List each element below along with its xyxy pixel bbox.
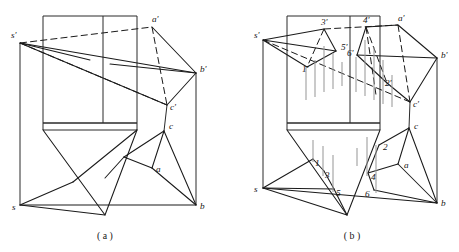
- figure-b-label-5: 5: [336, 188, 341, 198]
- figure-a-label-c: c: [169, 121, 173, 131]
- figure-b-caption: ( b ): [344, 230, 360, 242]
- figure-b-label-b-prime: b': [441, 50, 449, 60]
- figure-a-label-s-prime: s': [11, 30, 18, 40]
- figure-a-label-b: b: [200, 201, 205, 211]
- figure-b-lower-pyramid: [263, 130, 437, 215]
- figure-b-label-s-prime: s': [254, 30, 261, 40]
- figure-b-label-2-prime: 2': [385, 78, 393, 88]
- technical-drawing-root: s' a' b' c' c a b s ( a ): [0, 0, 459, 252]
- figure-a-label-s: s: [12, 202, 16, 212]
- figure-a-label-a: a: [156, 164, 161, 174]
- figure-b-label-s: s: [254, 184, 258, 194]
- figure-b-label-c: c: [414, 121, 418, 131]
- figure-b-label-4-prime: 4': [363, 15, 371, 25]
- figure-a-label-b-prime: b': [200, 64, 208, 74]
- figure-a-label-a-prime: a': [152, 14, 160, 24]
- figure-b-label-1: 1: [315, 158, 320, 168]
- figure-a-hidden-edges: [20, 27, 167, 105]
- figure-b-label-a-prime: a': [398, 13, 406, 23]
- figure-b-label-c-prime: c': [413, 99, 420, 109]
- figure-canvas: s' a' b' c' c a b s ( a ): [0, 0, 459, 252]
- figure-a-lower-triangle-solid: [105, 131, 196, 205]
- figure-b-label-2: 2: [383, 142, 388, 152]
- figure-b-label-1-prime: 1': [302, 64, 310, 74]
- figure-b-label-a: a: [404, 160, 409, 170]
- figure-a-group: s' a' b' c' c a b s ( a ): [11, 14, 208, 242]
- figure-b-label-6-prime: 6': [347, 48, 355, 58]
- figure-a-label-c-prime: c': [170, 102, 177, 112]
- figure-b-group: s' 3' 4' a' 5' 6' b' 1' 2' c' c 2 a 1 3 …: [254, 13, 449, 242]
- figure-b-label-3: 3: [324, 170, 330, 180]
- figure-b-label-3-prime: 3': [320, 17, 329, 27]
- figure-b-label-b: b: [441, 198, 446, 208]
- figure-a-upper-pyramid-solid: [20, 27, 196, 105]
- figure-a-caption: ( a ): [97, 230, 113, 242]
- figure-b-label-6: 6: [365, 189, 370, 199]
- figure-b-label-4: 4: [371, 172, 376, 182]
